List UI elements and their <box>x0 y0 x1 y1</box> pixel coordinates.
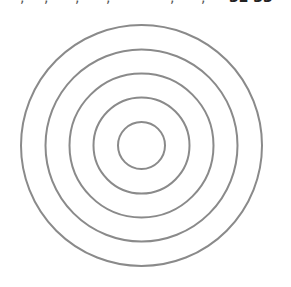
ring-5 <box>118 122 165 169</box>
ring-4 <box>94 98 190 194</box>
ring-3 <box>70 74 214 218</box>
ring-2 <box>46 50 238 242</box>
ring-1 <box>21 25 262 266</box>
concentric-circles-figure <box>0 0 291 287</box>
